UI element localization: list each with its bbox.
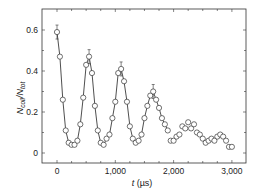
data-point	[92, 103, 97, 108]
data-point	[136, 138, 141, 143]
data-point	[191, 122, 196, 127]
data-point	[162, 122, 167, 127]
data-point	[95, 128, 100, 133]
data-point	[165, 128, 170, 133]
y-tick-label: 0.6	[26, 25, 38, 35]
data-point	[229, 144, 234, 149]
x-tick-label: 0	[55, 166, 60, 176]
data-point	[142, 116, 147, 121]
x-tick-label: 1,000	[105, 166, 127, 176]
data-point	[54, 29, 59, 34]
y-axis-label: Ncoll/Ntot	[15, 81, 26, 115]
x-axis-label: t (µs)	[132, 178, 153, 188]
data-point	[119, 66, 124, 71]
x-tick-labels: 01,0002,0003,000	[55, 166, 243, 176]
data-point	[183, 126, 188, 131]
x-tick-label: 3,000	[221, 166, 243, 176]
data-point	[121, 79, 126, 84]
y-tick-label: 0.2	[26, 107, 38, 117]
data-point	[86, 54, 91, 59]
fit-curve	[57, 32, 168, 145]
data-point	[78, 122, 83, 127]
data-point	[145, 103, 150, 108]
data-point	[186, 120, 191, 125]
data-point	[127, 124, 132, 129]
chart: 00.20.40.6 01,0002,0003,000 Ncoll/Ntot t…	[0, 0, 260, 193]
data-point	[110, 116, 115, 121]
data-point	[81, 95, 86, 100]
data-point	[57, 54, 62, 59]
data-point	[156, 105, 161, 110]
data-point	[154, 97, 159, 102]
x-tick-label: 2,000	[163, 166, 185, 176]
data-point	[139, 132, 144, 137]
y-tick-label: 0	[33, 148, 38, 158]
data-point	[101, 142, 106, 147]
data-point	[124, 99, 129, 104]
data-point	[151, 89, 156, 94]
data-points	[54, 25, 234, 149]
data-point	[107, 132, 112, 137]
data-point	[84, 62, 89, 67]
y-tick-labels: 00.20.40.6	[26, 25, 38, 158]
data-point	[223, 138, 228, 143]
data-point	[63, 128, 68, 133]
data-point	[113, 99, 118, 104]
y-tick-label: 0.4	[26, 66, 38, 76]
data-point	[89, 70, 94, 75]
data-point	[159, 116, 164, 121]
data-point	[75, 138, 80, 143]
data-point	[60, 97, 65, 102]
data-point	[177, 132, 182, 137]
